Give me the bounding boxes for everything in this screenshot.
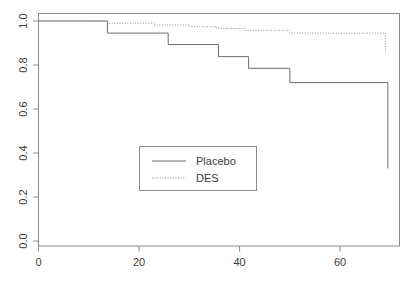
x-tick-label: 20 (133, 256, 145, 268)
legend-label-des: DES (196, 172, 219, 184)
y-axis-tick-labels: 0.00.20.40.60.81.0 (17, 13, 29, 248)
plot-frame (39, 14, 400, 247)
x-axis-ticks (39, 246, 341, 252)
y-tick-label: 0.8 (17, 57, 29, 72)
series-line-des (39, 21, 386, 52)
kaplan-meier-chart: 0.00.20.40.60.81.0 0204060 Placebo DES (0, 0, 411, 282)
x-axis-tick-labels: 0204060 (35, 256, 346, 268)
x-tick-label: 0 (35, 256, 41, 268)
y-tick-label: 0.0 (17, 233, 29, 248)
x-tick-label: 40 (233, 256, 245, 268)
y-axis-ticks (33, 21, 39, 241)
chart-legend[interactable]: Placebo DES (140, 147, 257, 191)
y-tick-label: 1.0 (17, 13, 29, 28)
legend-label-placebo: Placebo (196, 155, 236, 167)
y-tick-label: 0.2 (17, 189, 29, 204)
y-tick-label: 0.4 (17, 145, 29, 160)
y-tick-label: 0.6 (17, 101, 29, 116)
x-tick-label: 60 (334, 256, 346, 268)
chart-canvas: 0.00.20.40.60.81.0 0204060 Placebo DES (0, 0, 411, 282)
